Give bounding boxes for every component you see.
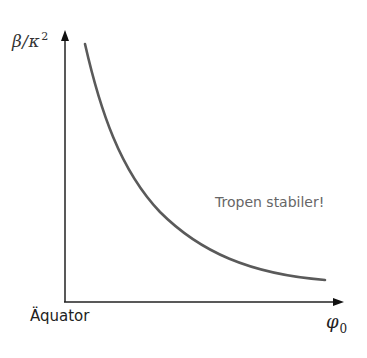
y-axis-arrow-icon [61,30,69,41]
data-curve [85,44,325,280]
x-origin-label: Äquator [30,307,89,325]
y-axis-label: β/κ2 [12,30,49,51]
x-axis-arrow-icon [333,298,344,306]
plot-area [0,0,367,358]
x-axis-label: φ0 [326,311,347,336]
chart: β/κ2 Äquator φ0 Tropen stabiler! [0,0,367,358]
annotation: Tropen stabiler! [215,194,324,210]
